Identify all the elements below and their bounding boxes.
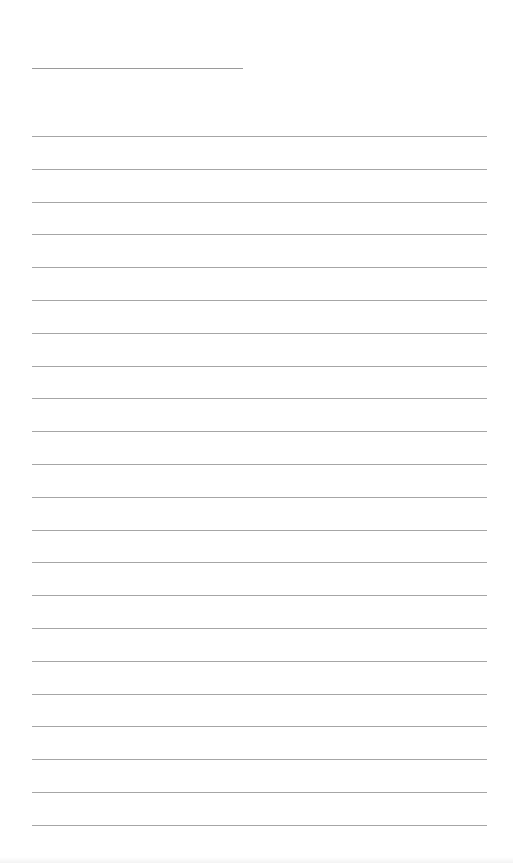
title-underline xyxy=(32,68,243,69)
ruled-line xyxy=(32,464,487,465)
ruled-line xyxy=(32,398,487,399)
ruled-line xyxy=(32,726,487,727)
ruled-line xyxy=(32,562,487,563)
ruled-line xyxy=(32,628,487,629)
notepad-page xyxy=(0,0,513,863)
ruled-line xyxy=(32,333,487,334)
ruled-line xyxy=(32,431,487,432)
ruled-line xyxy=(32,202,487,203)
ruled-line xyxy=(32,366,487,367)
ruled-line xyxy=(32,267,487,268)
ruled-line xyxy=(32,759,487,760)
ruled-line xyxy=(32,136,487,137)
ruled-line xyxy=(32,234,487,235)
ruled-line xyxy=(32,694,487,695)
ruled-line xyxy=(32,530,487,531)
ruled-line xyxy=(32,300,487,301)
ruled-line xyxy=(32,595,487,596)
ruled-line xyxy=(32,169,487,170)
ruled-line xyxy=(32,497,487,498)
page-bottom-edge xyxy=(0,857,513,863)
ruled-line xyxy=(32,825,487,826)
ruled-line xyxy=(32,792,487,793)
ruled-line xyxy=(32,661,487,662)
